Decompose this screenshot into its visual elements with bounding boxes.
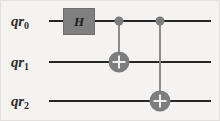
qubit-index-qr2: 2 [24,100,29,111]
qubit-index-qr0: 0 [24,20,29,31]
qubit-register-name-qr2: qr [11,93,24,109]
hadamard-gate-label: H [74,15,84,28]
cnot-control-dot-qr0[interactable] [115,17,124,26]
qubit-register-name-qr0: qr [11,13,24,29]
qubit-register-name-qr1: qr [11,54,24,70]
qubit-wire-qr1 [49,61,211,63]
hadamard-gate-qr0[interactable]: H [63,8,95,35]
qubit-label-qr1: qr1 [11,55,29,70]
qubit-label-qr0: qr0 [11,14,29,29]
quantum-circuit-diagram: qr0 qr1 qr2 H [0,0,220,121]
cnot-connector-line-qr0-qr2 [159,21,161,101]
qubit-index-qr1: 1 [24,61,29,72]
qubit-label-qr2: qr2 [11,94,29,109]
qubit-wire-qr2 [49,100,211,102]
cnot-target-plus-vertical-qr2 [159,95,161,108]
cnot-target-plus-vertical-qr1 [118,56,120,69]
cnot-control-dot-qr0-second[interactable] [156,17,165,26]
